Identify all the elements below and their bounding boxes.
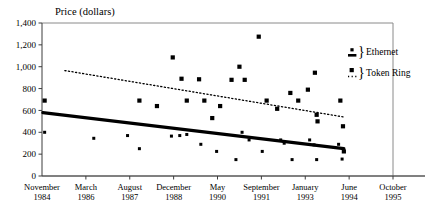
data-point-ethernet — [138, 147, 141, 150]
data-point-token-ring — [265, 98, 269, 102]
legend-swatch-token-ring — [348, 68, 357, 77]
data-point-ethernet — [92, 137, 95, 140]
chart-container: 02004006008001,0001,2001,400 November198… — [0, 0, 430, 222]
data-point-ethernet — [248, 138, 251, 141]
data-point-token-ring — [210, 116, 214, 120]
x-tick-label-year: 1988 — [165, 192, 182, 202]
legend-label-token-ring: Token Ring — [366, 68, 411, 78]
x-tick-label-year: 1987 — [121, 192, 138, 202]
data-point-ethernet — [337, 143, 340, 146]
plot-frame — [42, 23, 425, 176]
trend-lines — [43, 71, 344, 149]
y-tick-label: 200 — [23, 149, 37, 159]
y-tick-label: 400 — [23, 127, 37, 137]
legend-brace-ethernet: } — [358, 44, 365, 59]
data-point-token-ring — [43, 98, 47, 102]
y-tick-label: 1,400 — [16, 18, 37, 28]
data-point-token-ring — [257, 35, 261, 39]
data-point-token-ring — [237, 65, 241, 69]
x-tick-label-month: November — [24, 182, 60, 192]
data-point-token-ring — [197, 77, 201, 81]
data-point-ethernet — [43, 131, 46, 134]
data-point-token-ring — [202, 98, 206, 102]
data-point-ethernet — [178, 134, 181, 137]
data-point-token-ring — [137, 98, 141, 102]
y-tick-label: 600 — [23, 106, 37, 116]
data-point-ethernet — [185, 133, 188, 136]
data-point-token-ring — [306, 88, 310, 92]
x-tick-label-year: 1990 — [209, 192, 226, 202]
data-point-ethernet — [313, 143, 316, 146]
data-point-token-ring — [342, 149, 346, 153]
y-tick-label: 1,200 — [16, 40, 37, 50]
y-tick-label: 1,000 — [16, 62, 37, 72]
x-tick-label-month: September — [243, 182, 280, 192]
data-point-token-ring — [341, 124, 345, 128]
data-point-token-ring — [296, 98, 300, 102]
x-tick-label-year: 1984 — [34, 192, 52, 202]
data-point-token-ring — [275, 107, 279, 111]
data-point-ethernet — [215, 150, 218, 153]
legend-swatch-ethernet — [348, 48, 356, 56]
x-tick-label-year: 1991 — [253, 192, 270, 202]
data-point-ethernet — [170, 135, 173, 138]
trend-line-ethernet — [43, 113, 344, 149]
data-point-token-ring — [313, 71, 317, 75]
data-point-ethernet — [279, 138, 282, 141]
data-point-token-ring — [171, 55, 175, 59]
x-tick-label-year: 1986 — [77, 192, 94, 202]
trend-line-token-ring — [65, 71, 344, 117]
data-point-token-ring — [155, 104, 159, 108]
data-point-token-ring — [315, 119, 319, 123]
y-tick-label: 0 — [32, 171, 37, 181]
data-point-ethernet — [261, 150, 264, 153]
data-point-ethernet — [199, 143, 202, 146]
chart-title: Price (dollars) — [55, 6, 115, 18]
data-point-ethernet — [241, 131, 244, 134]
data-point-token-ring — [218, 104, 222, 108]
legend-brace-token-ring: } — [358, 65, 365, 80]
data-point-ethernet — [283, 142, 286, 145]
data-point-token-ring — [243, 78, 247, 82]
x-tick-label-month: August — [117, 182, 142, 192]
data-point-ethernet — [291, 158, 294, 161]
data-point-token-ring — [179, 77, 183, 81]
x-tick-label-month: June — [341, 182, 357, 192]
x-axis-ticks: November1984March1986August1987December1… — [24, 176, 407, 202]
legend-label-ethernet: Ethernet — [366, 47, 399, 57]
y-tick-label: 800 — [23, 84, 37, 94]
data-point-token-ring — [288, 91, 292, 95]
x-tick-label-year: 1994 — [341, 192, 359, 202]
data-point-token-ring — [229, 78, 233, 82]
scatter-plot-svg: 02004006008001,0001,2001,400 November198… — [0, 0, 430, 222]
data-point-ethernet — [234, 158, 237, 161]
x-tick-label-month: October — [379, 182, 407, 192]
data-point-token-ring — [315, 113, 319, 117]
x-tick-label-month: December — [156, 182, 191, 192]
data-point-token-ring — [185, 98, 189, 102]
x-tick-label-month: January — [292, 182, 319, 192]
data-point-ethernet — [341, 158, 344, 161]
x-tick-label-month: March — [75, 182, 98, 192]
x-tick-label-year: 1995 — [385, 192, 402, 202]
data-point-ethernet — [315, 158, 318, 161]
x-tick-label-month: May — [210, 182, 226, 192]
legend: } Ethernet } Token Ring — [348, 44, 411, 80]
data-point-token-ring — [338, 98, 342, 102]
data-point-ethernet — [126, 134, 129, 137]
y-axis-ticks: 02004006008001,0001,2001,400 — [16, 18, 42, 181]
data-point-ethernet — [308, 138, 311, 141]
x-tick-label-year: 1993 — [297, 192, 314, 202]
